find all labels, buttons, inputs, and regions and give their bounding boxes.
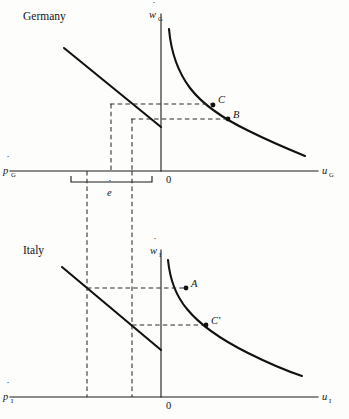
italy-left-axis-dot: ˙	[6, 380, 10, 391]
italy-point-c-prime-label: C'	[211, 315, 221, 326]
germany-phillips-curve	[169, 29, 305, 156]
italy-left-axis-label-base: p	[2, 391, 8, 402]
germany-x-axis-label-base: u	[322, 165, 327, 176]
germany-left-axis-label-base: p	[2, 165, 8, 176]
germany-point-c-label: C	[218, 94, 226, 105]
germany-left-axis-label-sub: G	[11, 171, 16, 178]
germany-bracket-label-base: e	[107, 187, 112, 198]
germany-y-axis-label-sub: G	[158, 15, 163, 22]
germany-point-b-label: B	[233, 109, 240, 120]
germany-panel-title: Germany	[23, 10, 66, 23]
phillips-curve-diagram: Germany ˙ w G u G ˙ p G 0 ˙	[0, 0, 349, 419]
italy-panel: Italy ˙ w I u I ˙ p I 0 A C'	[2, 236, 331, 411]
figure-root: Germany ˙ w G u G ˙ p G 0 ˙	[0, 0, 349, 419]
germany-origin-label: 0	[166, 174, 171, 185]
italy-phillips-curve	[168, 260, 302, 376]
italy-point-c-prime-marker	[204, 323, 209, 328]
italy-x-axis-label: u I	[322, 391, 331, 404]
germany-point-b-marker	[226, 117, 231, 122]
italy-x-axis-label-sub: I	[329, 397, 331, 404]
germany-left-axis-dot: ˙	[6, 154, 10, 165]
cross-panel-guides	[87, 171, 132, 397]
italy-wage-price-line	[62, 267, 161, 350]
italy-y-axis-label: ˙ w I	[150, 236, 161, 258]
italy-x-axis-label-base: u	[322, 391, 327, 402]
italy-y-axis-label-sub: I	[159, 251, 161, 258]
germany-y-axis-label-base: w	[149, 9, 156, 20]
germany-left-axis-label: ˙ p G	[2, 154, 16, 178]
italy-origin-label: 0	[166, 400, 171, 411]
italy-panel-title: Italy	[23, 244, 44, 257]
germany-x-axis-label: u G	[322, 165, 334, 178]
germany-x-axis-label-sub: G	[329, 171, 334, 178]
italy-point-a-marker	[184, 286, 189, 291]
germany-point-c-marker	[211, 103, 216, 108]
germany-y-axis-label: ˙ w G	[149, 0, 163, 22]
italy-point-a-label: A	[190, 278, 198, 289]
germany-panel: Germany ˙ w G u G ˙ p G 0 ˙	[2, 0, 334, 198]
italy-left-axis-label: ˙ p I	[2, 380, 13, 404]
italy-left-axis-label-sub: I	[11, 397, 13, 404]
germany-bracket-label: ˙ e	[107, 178, 112, 198]
germany-wage-price-line	[64, 48, 161, 127]
italy-y-axis-label-base: w	[150, 245, 157, 256]
